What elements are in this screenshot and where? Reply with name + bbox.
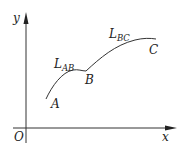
segment-bc-label-sub: BC (116, 33, 130, 43)
x-axis-label: x (162, 130, 169, 144)
point-a-label: A (50, 97, 60, 111)
origin-label: O (14, 130, 24, 144)
y-axis-label: y (12, 11, 20, 25)
segment-ab-label-main: L (53, 57, 62, 71)
point-b-label: B (84, 73, 94, 87)
segment-ab-label-sub: AB (61, 63, 74, 73)
curve-bc (86, 38, 156, 71)
segment-bc-label-main: L (108, 27, 117, 41)
curve-ab (46, 70, 86, 99)
y-axis-arrow-icon (24, 12, 29, 24)
diagram-canvas: y O x A B C LAB LBC (0, 0, 184, 150)
segment-ab-label: LAB (53, 57, 74, 73)
segment-bc-label: LBC (108, 27, 130, 43)
point-c-label: C (149, 43, 158, 57)
